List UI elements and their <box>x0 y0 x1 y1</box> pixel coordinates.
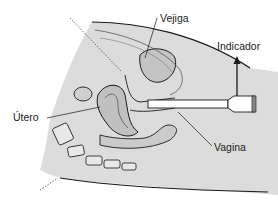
pelvic-anatomy-diagram <box>0 0 278 205</box>
label-uterus: Útero <box>13 112 39 123</box>
dotted-axis-lower <box>40 178 58 190</box>
label-bladder: Vejiga <box>160 13 189 24</box>
label-vagina: Vagina <box>214 142 246 153</box>
ovary <box>74 87 92 101</box>
probe-tip <box>252 96 256 112</box>
label-indicator: Indicador <box>217 41 260 52</box>
